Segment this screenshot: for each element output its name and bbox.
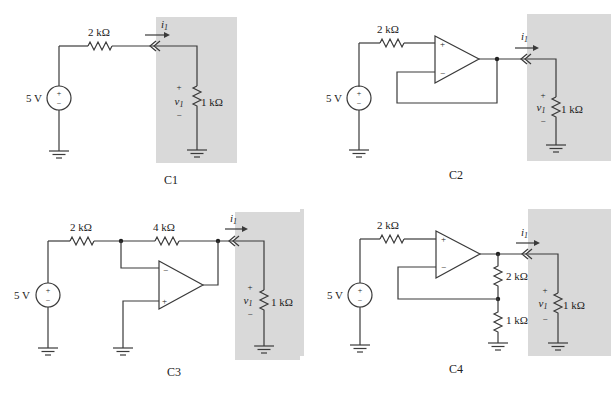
resistor-label: 2 kΩ [377, 23, 399, 35]
load-minus: − [540, 116, 545, 126]
source-minus: − [358, 296, 363, 305]
circuit-c3: + − 5 V 2 kΩ 4 kΩ − + i1 1 kΩ + v1 − C3 [14, 212, 300, 379]
load-label: 1 kΩ [561, 103, 583, 115]
resistor-2k [380, 235, 404, 243]
opamp-plus: + [440, 39, 445, 49]
resistor-label: 2 kΩ [377, 219, 399, 231]
opamp-minus: − [440, 68, 445, 78]
load-minus: − [247, 309, 252, 319]
load-region-shade [527, 14, 611, 161]
resistor-4k [155, 237, 179, 245]
load-label: 1 kΩ [201, 96, 223, 108]
circuit-c2: + − 5 V 2 kΩ + − i1 1 kΩ + v1 − C2 [326, 14, 611, 182]
opamp-minus: − [441, 262, 446, 272]
load-plus: + [176, 82, 181, 92]
source-label: 5 V [327, 289, 343, 301]
source-label: 5 V [14, 289, 30, 301]
load-minus: − [176, 110, 181, 120]
source-plus: + [357, 89, 362, 98]
feedback-bottom-resistor [494, 299, 502, 343]
resistor-2k [380, 39, 404, 47]
caption-c3: C3 [167, 365, 181, 379]
source-minus: − [357, 99, 362, 108]
source-plus: + [46, 286, 51, 295]
caption-c2: C2 [449, 168, 463, 182]
current-label: i1 [521, 226, 528, 240]
caption-c1: C1 [164, 173, 178, 187]
source-plus: + [57, 89, 62, 98]
source-minus: − [57, 99, 62, 108]
load-region-shade [528, 209, 611, 356]
load-plus: + [542, 285, 547, 295]
feedback-bottom-label: 1 kΩ [506, 314, 528, 326]
feedback-top-resistor [494, 254, 502, 299]
source-minus: − [46, 296, 51, 305]
circuit-c1: + − 5 V 2 kΩ i1 1 kΩ + v1 − C1 [26, 17, 237, 187]
resistor-2k [88, 42, 112, 50]
load-plus: + [540, 90, 545, 100]
source-label: 5 V [326, 92, 342, 104]
opamp-minus: − [163, 265, 168, 275]
source-label: 5 V [26, 92, 42, 104]
resistor-2k [70, 237, 94, 245]
opamp-plus: + [162, 296, 167, 306]
caption-c4: C4 [449, 362, 463, 376]
resistor-label: 2 kΩ [88, 26, 110, 38]
source-plus: + [358, 286, 363, 295]
shade-edge [300, 209, 304, 356]
feedback-top-label: 2 kΩ [506, 270, 528, 282]
opamp-plus: + [441, 234, 446, 244]
load-region-shade [235, 212, 300, 360]
load-label: 1 kΩ [271, 296, 293, 308]
load-minus: − [542, 314, 547, 324]
circuit-c4: + − 5 V 2 kΩ + − 2 kΩ 1 kΩ i1 1 kΩ + v1 … [300, 209, 611, 376]
circuit-figure: + − 5 V 2 kΩ i1 1 kΩ + v1 − C1 + − 5 V 2… [0, 0, 611, 395]
feedback-resistor-label: 4 kΩ [153, 221, 175, 233]
load-plus: + [247, 282, 252, 292]
load-label: 1 kΩ [563, 299, 585, 311]
input-resistor-label: 2 kΩ [70, 221, 92, 233]
